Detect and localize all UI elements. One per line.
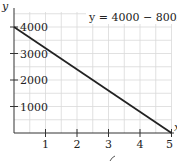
equation-annotation: y = 4000 − 800x — [88, 11, 177, 24]
x-tick-label: 3 — [105, 138, 112, 151]
x-tick-label: 5 — [166, 138, 173, 151]
cropped-caption-fragment — [110, 156, 115, 161]
y-tick-label: 4000 — [20, 21, 48, 34]
x-tick-label: 2 — [74, 138, 81, 151]
equation-text: y = 4000 − 800 — [88, 11, 177, 24]
line-chart: y x 4000 3000 2000 1000 1 2 3 4 5 y = 40… — [0, 0, 177, 161]
x-tick-label: 4 — [137, 138, 144, 151]
y-tick-label: 2000 — [20, 74, 48, 87]
y-tick-label: 1000 — [20, 101, 48, 114]
x-axis-label: x — [174, 121, 177, 134]
y-axis-label: y — [1, 0, 9, 13]
y-tick-label: 3000 — [20, 48, 48, 61]
x-tick-label: 1 — [42, 138, 49, 151]
